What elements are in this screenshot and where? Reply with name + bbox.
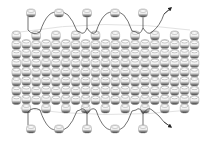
bead <box>71 31 80 40</box>
bead-hole <box>13 32 20 35</box>
bead-hole <box>13 78 20 81</box>
bead-hole <box>142 49 149 52</box>
bead-hole <box>112 50 119 53</box>
bead <box>12 95 21 104</box>
bead <box>71 68 80 77</box>
bead <box>91 77 100 86</box>
bead <box>12 77 21 86</box>
bead <box>52 59 61 68</box>
bead <box>111 95 120 104</box>
bead-hole <box>23 49 30 52</box>
bead-hole <box>28 10 35 13</box>
bead <box>190 31 199 40</box>
bead <box>32 95 41 104</box>
top-picot-bead <box>111 9 120 17</box>
bead-hole <box>82 49 89 52</box>
bead <box>32 77 41 86</box>
bead-hole <box>72 96 79 99</box>
bead-hole <box>161 59 168 62</box>
bead <box>160 49 169 58</box>
bead <box>151 49 160 58</box>
bead-hole <box>112 126 119 129</box>
bead-hole <box>82 105 89 108</box>
bead-hole <box>161 49 168 52</box>
bead <box>111 49 120 58</box>
bead-hole <box>33 96 40 99</box>
bead-hole <box>142 40 149 43</box>
bead <box>141 58 150 67</box>
thread-path-top <box>28 8 171 34</box>
bead-hole <box>13 87 20 90</box>
bead <box>121 49 130 58</box>
bead-hole <box>53 50 60 53</box>
bead-hole <box>112 68 119 71</box>
bead-hole <box>132 68 139 71</box>
bead-hole <box>132 50 139 53</box>
bead-hole <box>161 86 168 89</box>
bead <box>22 40 31 49</box>
bead <box>180 49 189 58</box>
bead <box>160 58 169 67</box>
bead <box>91 95 100 104</box>
bead <box>91 86 100 95</box>
bead <box>22 49 31 58</box>
bead-hole <box>161 77 168 80</box>
bead <box>151 68 160 77</box>
bead-hole <box>92 68 99 71</box>
bead <box>111 59 120 68</box>
bead <box>180 95 189 104</box>
bead-hole <box>33 87 40 90</box>
bead <box>111 40 120 49</box>
bead-hole <box>43 95 50 98</box>
bead <box>190 59 199 68</box>
bead <box>141 95 150 104</box>
bead <box>42 67 51 76</box>
bead <box>180 40 189 49</box>
bead-hole <box>142 95 149 98</box>
bead-hole <box>142 105 149 108</box>
bead-hole <box>53 41 60 44</box>
bead <box>121 95 130 104</box>
bead-hole <box>171 41 178 44</box>
bead-hole <box>181 86 188 89</box>
bead-weave-diagram <box>0 0 211 145</box>
bead-hole <box>122 59 129 62</box>
bead <box>22 67 31 76</box>
bead-hole <box>72 87 79 90</box>
bead <box>91 59 100 68</box>
bead <box>141 67 150 76</box>
bottom-picot-bead <box>139 125 148 133</box>
bead-hole <box>43 49 50 52</box>
bead-hole <box>152 96 159 99</box>
bottom-picot-bead <box>27 125 36 133</box>
bead <box>52 40 61 49</box>
bead <box>111 31 120 40</box>
bead-hole <box>23 40 30 43</box>
bead-hole <box>152 68 159 71</box>
bead <box>52 95 61 104</box>
bead <box>101 95 110 104</box>
bead <box>42 58 51 67</box>
bead-hole <box>53 68 60 71</box>
bead-hole <box>171 59 178 62</box>
bead-hole <box>72 41 79 44</box>
bead <box>101 49 110 58</box>
guide-curve-top <box>20 24 190 32</box>
bead <box>170 86 179 95</box>
bead-hole <box>53 78 60 81</box>
bead <box>131 86 140 95</box>
bead-hole <box>112 32 119 35</box>
bead <box>121 86 130 95</box>
bead-hole <box>72 32 79 35</box>
bead-hole <box>132 78 139 81</box>
bead <box>111 68 120 77</box>
bead-hole <box>191 32 198 35</box>
bead-hole <box>33 41 40 44</box>
top-picot-bead <box>27 9 36 17</box>
bead-hole <box>62 86 69 89</box>
bead-hole <box>171 50 178 53</box>
bead <box>101 58 110 67</box>
bead <box>81 95 90 104</box>
bead <box>32 59 41 68</box>
bead <box>22 58 31 67</box>
